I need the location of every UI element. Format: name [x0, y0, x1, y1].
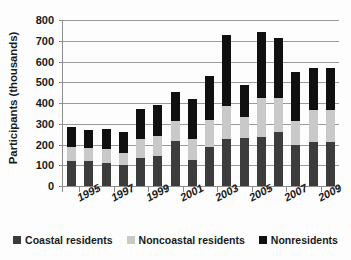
y-axis-tick-label: 700 [36, 35, 54, 47]
y-axis-title-label: Participants (thousands) [7, 32, 19, 164]
bar-segment[interactable] [136, 109, 145, 139]
bar-segment[interactable] [102, 149, 111, 164]
bar-segment[interactable] [171, 121, 180, 141]
bar-segment[interactable] [102, 129, 111, 148]
bars-layer [63, 20, 339, 186]
y-axis-tick-label: 300 [36, 118, 54, 130]
bar-group-2007[interactable] [291, 20, 300, 186]
legend-item[interactable]: Noncoastal residents [127, 234, 245, 246]
bar-segment[interactable] [153, 156, 162, 186]
y-axis-tick-label: 600 [36, 56, 54, 68]
y-axis-tick-label: 200 [36, 139, 54, 151]
legend-item-label: Coastal residents [25, 234, 113, 246]
x-axis-tick [62, 187, 63, 192]
square-marker-icon [13, 236, 21, 244]
bar-segment[interactable] [240, 117, 249, 138]
y-axis-tick-label: 400 [36, 97, 54, 109]
bar-group-2001[interactable] [188, 20, 197, 186]
chart-container: Participants (thousands) 010020030040050… [0, 0, 351, 260]
bar-group-2009[interactable] [326, 20, 335, 186]
y-axis-tick [59, 124, 63, 125]
bar-group-1994[interactable] [67, 20, 76, 186]
bar-segment[interactable] [84, 161, 93, 186]
bar-segment[interactable] [274, 132, 283, 186]
bar-segment[interactable] [171, 92, 180, 122]
bar-segment[interactable] [136, 139, 145, 158]
bar-segment[interactable] [274, 38, 283, 98]
bar-segment[interactable] [326, 110, 335, 143]
chart-legend: Coastal residentsNoncoastal residentsNon… [0, 231, 351, 249]
square-marker-icon [127, 236, 135, 244]
y-axis-tick [59, 103, 63, 104]
y-axis-tick [59, 20, 63, 21]
legend-item-label: Noncoastal residents [139, 234, 245, 246]
bar-segment[interactable] [309, 110, 318, 143]
bar-segment[interactable] [102, 163, 111, 186]
bar-segment[interactable] [257, 137, 266, 186]
bar-segment[interactable] [257, 98, 266, 137]
bar-group-1996[interactable] [102, 20, 111, 186]
bar-segment[interactable] [291, 72, 300, 121]
bar-group-1999[interactable] [153, 20, 162, 186]
y-axis-tick [59, 145, 63, 146]
bar-segment[interactable] [257, 32, 266, 98]
bar-segment[interactable] [205, 76, 214, 120]
y-axis-tick [59, 41, 63, 42]
bar-segment[interactable] [240, 85, 249, 118]
bar-segment[interactable] [326, 68, 335, 110]
bar-group-2008[interactable] [309, 20, 318, 186]
bar-group-2004[interactable] [240, 20, 249, 186]
legend-item-label: Nonresidents [271, 234, 338, 246]
x-axis-tick-labels: 19951997199920012003200520072009 [62, 193, 351, 227]
bar-group-1998[interactable] [136, 20, 145, 186]
bar-segment[interactable] [222, 35, 231, 106]
bar-segment[interactable] [222, 139, 231, 186]
bar-group-1995[interactable] [84, 20, 93, 186]
bar-segment[interactable] [205, 147, 214, 186]
y-axis-tick-labels: 0100200300400500600700800 [26, 14, 58, 186]
bar-segment[interactable] [291, 145, 300, 186]
bar-segment[interactable] [119, 132, 128, 152]
bar-segment[interactable] [240, 138, 249, 186]
square-marker-icon [259, 236, 267, 244]
bar-segment[interactable] [326, 142, 335, 186]
y-axis-tick [59, 165, 63, 166]
bar-group-2000[interactable] [171, 20, 180, 186]
bar-group-2003[interactable] [222, 20, 231, 186]
bar-segment[interactable] [84, 148, 93, 161]
bar-segment[interactable] [153, 105, 162, 136]
bar-segment[interactable] [205, 120, 214, 146]
bar-segment[interactable] [188, 99, 197, 139]
bar-segment[interactable] [222, 106, 231, 139]
bar-segment[interactable] [84, 130, 93, 148]
bar-segment[interactable] [119, 153, 128, 165]
bar-segment[interactable] [188, 139, 197, 160]
y-axis-tick-label: 500 [36, 76, 54, 88]
bar-segment[interactable] [67, 161, 76, 186]
y-axis-tick-label: 100 [36, 159, 54, 171]
bar-segment[interactable] [171, 141, 180, 186]
legend-item[interactable]: Coastal residents [13, 234, 113, 246]
bar-segment[interactable] [188, 160, 197, 186]
bar-segment[interactable] [309, 68, 318, 110]
y-axis-tick [59, 62, 63, 63]
bar-group-2006[interactable] [274, 20, 283, 186]
bar-segment[interactable] [67, 127, 76, 148]
bar-group-1997[interactable] [119, 20, 128, 186]
y-axis-tick [59, 82, 63, 83]
bar-group-2005[interactable] [257, 20, 266, 186]
bar-segment[interactable] [136, 158, 145, 186]
y-axis-title: Participants (thousands) [0, 0, 26, 196]
plot-area [62, 20, 339, 187]
bar-segment[interactable] [291, 121, 300, 145]
legend-item[interactable]: Nonresidents [259, 234, 338, 246]
bar-segment[interactable] [309, 142, 318, 186]
bar-segment[interactable] [67, 147, 76, 161]
y-axis-tick-label: 800 [36, 14, 54, 26]
bar-segment[interactable] [153, 136, 162, 156]
bar-segment[interactable] [274, 98, 283, 133]
y-axis-tick-label: 0 [48, 180, 54, 192]
bar-group-2002[interactable] [205, 20, 214, 186]
